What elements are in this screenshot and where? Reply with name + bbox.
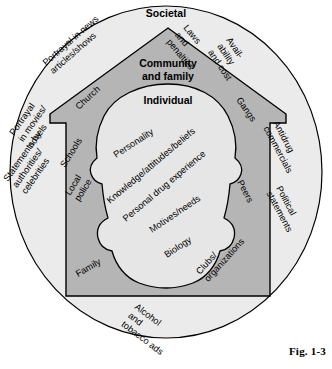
individual-title: Individual (143, 94, 192, 106)
community-title-line2: and family (142, 70, 194, 82)
figure-diagram: Societal Community and family Individual… (0, 0, 332, 369)
figure-caption: Fig. 1-3 (289, 345, 326, 357)
societal-title: Societal (146, 7, 186, 19)
nested-influences-diagram: Societal Community and family Individual… (0, 0, 332, 369)
